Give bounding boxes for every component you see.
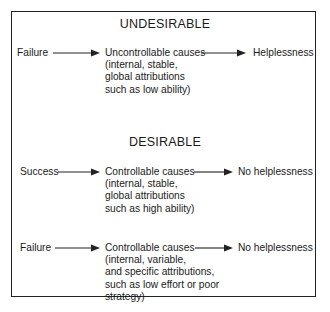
arrow-icon	[195, 244, 234, 252]
result-helplessness: Helplessness	[253, 47, 314, 59]
cause-controllable-stable: Controllable causes (internal, stable, g…	[105, 166, 194, 215]
arrow-icon	[55, 244, 101, 252]
cause-line: and specific attributions,	[105, 266, 219, 278]
cause-line: such as high ability)	[105, 203, 194, 215]
cause-line: global attributions	[105, 71, 205, 83]
result-no-helplessness: No helplessness	[238, 166, 313, 178]
cause-line: such as low ability)	[105, 84, 205, 96]
heading-desirable: DESIRABLE	[0, 135, 330, 149]
cause-line: such as low effort or poor	[105, 279, 219, 291]
cause-uncontrollable: Uncontrollable causes (internal, stable,…	[105, 47, 205, 96]
arrow-icon	[194, 168, 234, 176]
cause-line: strategy)	[105, 291, 219, 303]
cause-line: (internal, variable,	[105, 254, 219, 266]
heading-undesirable: UNDESIRABLE	[0, 17, 330, 31]
cause-line: Controllable causes	[105, 166, 194, 178]
arrow-icon	[53, 49, 101, 57]
cause-line: (internal, stable,	[105, 59, 205, 71]
cause-line: global attributions	[105, 190, 194, 202]
outcome-success: Success	[20, 166, 59, 178]
cause-line: (internal, stable,	[105, 178, 194, 190]
outcome-failure-desirable: Failure	[20, 242, 51, 254]
arrow-icon	[201, 49, 247, 57]
outcome-failure-undesirable: Failure	[17, 47, 48, 59]
arrow-icon	[58, 168, 101, 176]
result-no-helplessness: No helplessness	[238, 242, 313, 254]
cause-line: Uncontrollable causes	[105, 47, 205, 59]
